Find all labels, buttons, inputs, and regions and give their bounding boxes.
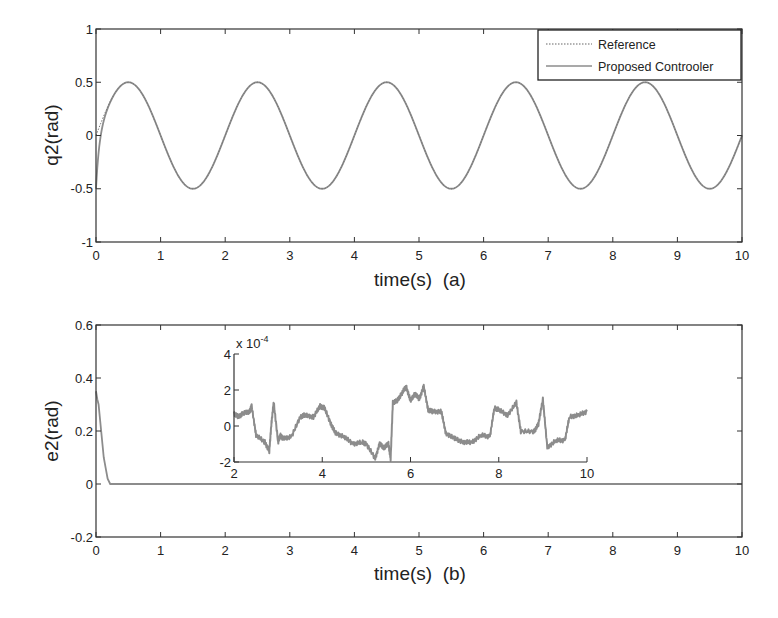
x-tick-label: 3 — [286, 248, 293, 263]
plot-b-xlabel: time(s) (b) — [374, 563, 466, 584]
x-tick-label: 5 — [415, 543, 422, 558]
y-tick-label: 0.6 — [75, 318, 93, 333]
x-tick-label: 1 — [157, 248, 164, 263]
plot-a-xlabel: time(s) (a) — [374, 269, 466, 290]
y-tick-label: -2 — [219, 455, 231, 470]
x-tick-label: 4 — [351, 248, 358, 263]
plot-a-legend: Reference Proposed Controoler — [538, 30, 741, 80]
x-tick-label: 4 — [351, 543, 358, 558]
x-tick-label: 4 — [319, 466, 326, 481]
y-tick-label: 0 — [86, 477, 93, 492]
x-tick-label: 10 — [735, 543, 749, 558]
x-tick-label: 6 — [407, 466, 414, 481]
y-tick-label: 0.4 — [75, 371, 93, 386]
legend-reference-label: Reference — [598, 38, 656, 52]
y-tick-label: 2 — [224, 383, 231, 398]
inset-background — [234, 354, 587, 462]
y-tick-label: -1 — [81, 235, 93, 250]
x-tick-label: 7 — [545, 543, 552, 558]
y-tick-label: -0.5 — [71, 181, 93, 196]
y-tick-label: 0.2 — [75, 424, 93, 439]
x-tick-label: 10 — [580, 466, 594, 481]
x-tick-label: 10 — [735, 248, 749, 263]
plot-b-ylabel: e2(rad) — [41, 400, 62, 461]
x-tick-label: 3 — [286, 543, 293, 558]
x-tick-label: 1 — [157, 543, 164, 558]
x-tick-label: 7 — [545, 248, 552, 263]
x-tick-label: 2 — [230, 466, 237, 481]
y-tick-label: 0 — [224, 419, 231, 434]
y-tick-label: 0 — [86, 128, 93, 143]
x-tick-label: 9 — [674, 543, 681, 558]
y-tick-label: 4 — [224, 347, 231, 362]
x-tick-label: 5 — [415, 248, 422, 263]
x-tick-label: 6 — [480, 543, 487, 558]
plot-b-inset: 246810-2024 x 10-4 — [219, 334, 594, 481]
x-tick-label: 2 — [222, 248, 229, 263]
plot-a-ylabel: q2(rad) — [41, 104, 62, 165]
figure-background — [0, 0, 778, 618]
figure: 012345678910-1-0.500.51 q2(rad) time(s) … — [0, 0, 778, 618]
x-tick-label: 8 — [609, 248, 616, 263]
legend-controller-label: Proposed Controoler — [598, 60, 713, 74]
y-tick-label: 1 — [86, 22, 93, 37]
x-tick-label: 2 — [222, 543, 229, 558]
x-tick-label: 0 — [92, 543, 99, 558]
x-tick-label: 8 — [495, 466, 502, 481]
x-tick-label: 0 — [92, 248, 99, 263]
x-tick-label: 8 — [609, 543, 616, 558]
y-tick-label: 0.5 — [75, 75, 93, 90]
x-tick-label: 6 — [480, 248, 487, 263]
x-tick-label: 9 — [674, 248, 681, 263]
y-tick-label: -0.2 — [71, 530, 93, 545]
